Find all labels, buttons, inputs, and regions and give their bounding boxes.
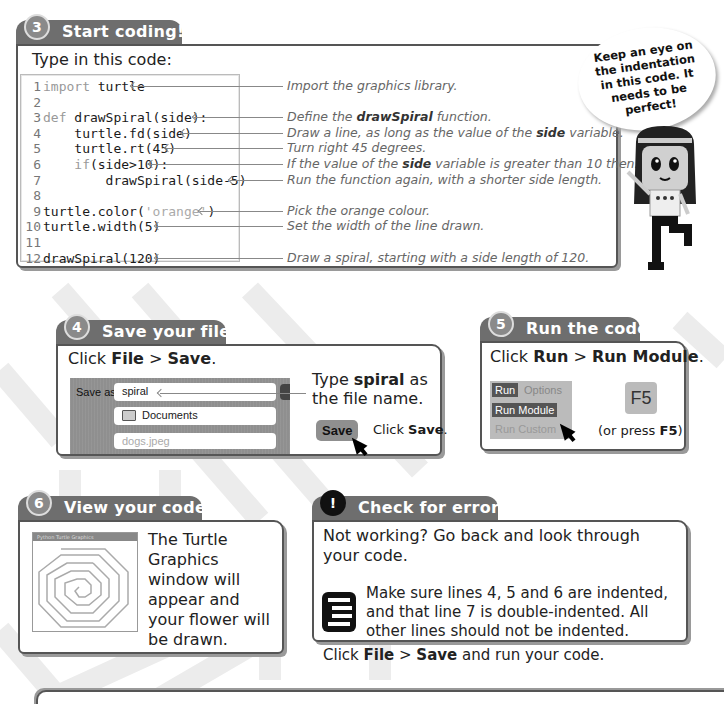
code-annotation: Run the function again, with a shorter s… — [287, 172, 602, 187]
step4-title: Save your file — [102, 322, 230, 341]
menu-run-custom[interactable]: Run Custom — [495, 423, 556, 435]
arrow-head-icon — [228, 175, 236, 183]
step4-header: 4 Save your file — [56, 320, 226, 344]
code-annotation: Turn right 45 degrees. — [287, 140, 426, 155]
filename-input[interactable]: spiral — [114, 383, 276, 401]
arrow-head-icon — [154, 222, 162, 230]
save-dialog: Save as: spiral Documents dogs.jpeg — [70, 378, 290, 454]
turtle-window-title: Python Turtle Graphics — [33, 533, 137, 541]
step6-header: 6 View your code — [18, 496, 202, 520]
arrow-head-icon — [164, 144, 172, 152]
step5-title: Run the code — [526, 319, 649, 338]
step5-instruction: Click Run > Run Module. — [490, 347, 704, 366]
code-annotation: Set the width of the line drawn. — [287, 218, 484, 233]
check-tip: Make sure lines 4, 5 and 6 are indented,… — [366, 584, 682, 641]
arrow-head-icon — [154, 253, 162, 261]
step5-header: 5 Run the code — [480, 317, 640, 341]
menu-run-module[interactable]: Run Module — [492, 403, 557, 417]
annotation-arrow — [150, 164, 283, 165]
click-save-note: Click Save. — [373, 422, 448, 437]
arrow-head-icon — [180, 129, 188, 137]
menu-run[interactable]: Run — [492, 383, 518, 397]
annotation-arrow — [182, 133, 283, 134]
f5-note: (or press F5) — [598, 423, 683, 438]
step4-instruction: Click File > Save. — [68, 349, 216, 368]
check-header: ! Check for errors — [312, 496, 498, 520]
annotation-arrow — [166, 148, 283, 149]
code-annotation: Import the graphics library. — [287, 78, 458, 93]
folder-selector[interactable]: Documents — [114, 407, 276, 425]
arrow-head-icon — [148, 160, 156, 168]
turtle-graphics-window: Python Turtle Graphics — [32, 532, 138, 632]
character-illustration-icon — [622, 124, 712, 284]
check-title: Check for errors — [358, 498, 509, 517]
annotation-arrow — [132, 86, 283, 87]
type-spiral-note: Type spiral as the file name. — [312, 370, 432, 408]
annotation-arrow — [156, 226, 283, 227]
step4-number: 4 — [64, 314, 90, 340]
arrow-head-icon — [130, 82, 138, 90]
annotation-arrow — [194, 117, 283, 118]
indentation-icon — [322, 592, 356, 632]
code-annotation: Pick the orange colour. — [287, 203, 430, 218]
arrow-head-icon — [198, 207, 206, 215]
spiral-drawing-icon — [33, 541, 137, 631]
f5-key: F5 — [625, 382, 657, 414]
check-number: ! — [320, 490, 346, 516]
menu-options[interactable]: Options — [524, 384, 562, 396]
code-annotation: Draw a spiral, starting with a side leng… — [287, 250, 589, 265]
filename-arrow-line — [160, 393, 306, 394]
step5-number: 5 — [488, 311, 514, 337]
code-annotation: Define the drawSpiral function. — [287, 109, 492, 124]
annotation-arrow — [156, 258, 283, 259]
annotation-arrow — [200, 211, 283, 212]
file-list-item[interactable]: dogs.jpeg — [114, 433, 276, 449]
code-annotation: If the value of the side variable is gre… — [287, 156, 639, 171]
step6-description: The Turtle Graphics window will appear a… — [148, 530, 278, 650]
save-as-label: Save as: — [76, 386, 119, 398]
dialog-save-button-edge[interactable] — [280, 384, 290, 400]
arrow-head-icon — [192, 113, 200, 121]
speech-bubble-text: Keep an eye on the indentation in this c… — [588, 37, 707, 122]
check-footer: Click File > Save and run your code. — [323, 646, 604, 664]
code-annotation: Draw a line, as long as the value of the… — [287, 125, 624, 140]
check-intro: Not working? Go back and look through yo… — [323, 526, 643, 566]
step6-number: 6 — [26, 490, 52, 516]
annotation-arrow — [230, 180, 283, 181]
step6-title: View your code — [64, 498, 206, 517]
folder-icon — [122, 410, 136, 421]
